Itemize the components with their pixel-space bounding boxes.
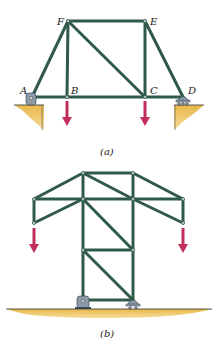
joint-b4 [82, 198, 85, 201]
member-top-diagonal [83, 173, 133, 199]
label-E: E [149, 16, 158, 27]
joint-F [67, 20, 70, 23]
label-D: D [187, 85, 196, 96]
members-a [32, 21, 183, 97]
truss-b: (b) [6, 172, 212, 340]
truss-a: F E A B C D (a) [14, 16, 204, 157]
joint-b7 [33, 222, 36, 225]
joint-b10 [132, 249, 135, 252]
load-arrow-C [140, 101, 150, 126]
joint-B [66, 96, 69, 99]
joint-b9 [82, 249, 85, 252]
member-right-lower [133, 199, 183, 223]
label-B: B [70, 85, 78, 96]
joint-b5 [132, 198, 135, 201]
joint-b3 [33, 198, 36, 201]
caption-a: (a) [100, 146, 114, 157]
ground-right [174, 105, 204, 130]
member-FB [67, 21, 68, 97]
member-tower-diag-upper [83, 199, 133, 250]
member-right-upper [133, 173, 183, 199]
joint-b1 [82, 172, 85, 175]
label-A: A [19, 85, 27, 96]
caption-b: (b) [100, 328, 114, 339]
load-arrow-left [29, 228, 39, 253]
member-FC [68, 21, 145, 97]
joint-E [144, 20, 147, 23]
label-C: C [150, 85, 158, 96]
load-arrow-B [62, 101, 72, 126]
joint-b6 [182, 198, 185, 201]
member-left-upper [34, 173, 83, 199]
pin-support-b [75, 296, 91, 309]
member-AF [32, 21, 68, 97]
joint-C [144, 96, 147, 99]
member-tower-diag-lower [83, 250, 133, 300]
member-left-lower [34, 199, 83, 223]
truss-figure: F E A B C D (a) [0, 0, 220, 343]
ground-b [6, 309, 212, 318]
pin-support-A [26, 93, 36, 105]
joint-b2 [132, 172, 135, 175]
members-b [34, 173, 183, 300]
load-arrow-right [178, 228, 188, 253]
joint-b8 [182, 222, 185, 225]
ground-left [14, 105, 44, 130]
label-F: F [56, 16, 65, 27]
